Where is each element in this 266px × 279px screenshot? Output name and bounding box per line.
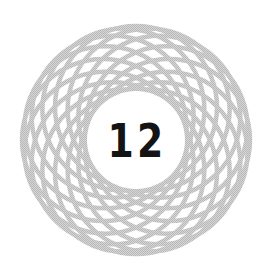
emblem-number: 12 [107,118,166,164]
center-disc: 12 [87,91,185,189]
number-emblem: 12 [0,0,266,279]
